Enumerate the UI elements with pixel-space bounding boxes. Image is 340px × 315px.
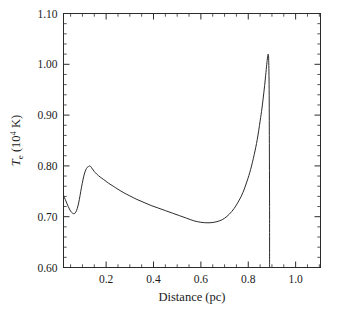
- y-tick-label: 0.60: [37, 262, 57, 274]
- x-tick-label: 0.4: [146, 273, 161, 285]
- temperature-distance-line-chart: 0.20.40.60.81.00.600.700.800.901.001.10D…: [0, 0, 340, 315]
- y-tick-label: 1.10: [37, 8, 57, 20]
- y-axis-units-open: (10: [9, 135, 23, 155]
- y-tick-label: 1.00: [37, 58, 57, 70]
- x-tick-label: 0.2: [99, 273, 114, 285]
- x-tick-label: 1.0: [288, 273, 303, 285]
- chart-figure: 0.20.40.60.81.00.600.700.800.901.001.10D…: [0, 0, 340, 315]
- y-tick-label: 0.90: [37, 109, 57, 121]
- y-tick-label: 0.80: [37, 160, 57, 172]
- x-axis-title: Distance (pc): [159, 290, 226, 304]
- y-axis-units-close: K): [9, 115, 23, 131]
- x-tick-label: 0.6: [194, 273, 209, 285]
- y-tick-label: 0.70: [37, 211, 57, 223]
- x-tick-label: 0.8: [241, 273, 256, 285]
